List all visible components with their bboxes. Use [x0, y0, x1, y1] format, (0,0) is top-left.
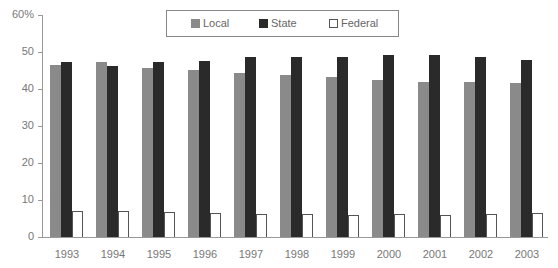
x-tick-label: 2001: [412, 248, 458, 260]
bar-state-1997: [245, 57, 256, 237]
legend: Local State Federal: [166, 10, 399, 37]
bar-local-1994: [96, 62, 107, 237]
y-tick-label: 40: [0, 82, 34, 94]
bar-local-2003: [510, 83, 521, 237]
y-tick: [38, 15, 42, 16]
x-tick-label: 1994: [90, 248, 136, 260]
bar-local-2002: [464, 82, 475, 237]
bar-state-2003: [521, 60, 532, 237]
y-tick-label: 30: [0, 119, 34, 131]
y-tick-label: 10: [0, 193, 34, 205]
legend-item-federal: Federal: [329, 17, 378, 29]
bar-state-1994: [107, 66, 118, 237]
legend-label: Federal: [341, 17, 378, 29]
bar-local-1996: [188, 70, 199, 237]
bar-federal-1999: [348, 215, 359, 237]
bar-federal-1998: [302, 214, 313, 237]
federal-swatch-icon: [329, 19, 338, 28]
legend-item-state: State: [259, 17, 297, 29]
y-tick: [38, 52, 42, 53]
legend-item-local: Local: [191, 17, 229, 29]
bar-local-1998: [280, 75, 291, 237]
bar-state-1999: [337, 57, 348, 237]
y-tick: [38, 89, 42, 90]
state-swatch-icon: [259, 19, 268, 28]
bar-local-1995: [142, 68, 153, 237]
y-axis: [42, 15, 43, 237]
x-tick-label: 1999: [320, 248, 366, 260]
y-tick-label: 60%: [0, 8, 34, 20]
x-tick-label: 1996: [182, 248, 228, 260]
bar-state-1993: [61, 62, 72, 237]
bar-federal-2003: [532, 213, 543, 237]
bar-federal-1993: [72, 211, 83, 237]
y-tick-label: 0: [0, 230, 34, 242]
x-tick-label: 1997: [228, 248, 274, 260]
bar-state-2000: [383, 55, 394, 237]
bar-state-1996: [199, 61, 210, 237]
x-tick-label: 1998: [274, 248, 320, 260]
bar-local-1999: [326, 77, 337, 237]
bar-local-1993: [50, 65, 61, 237]
bar-local-2001: [418, 82, 429, 237]
bar-federal-2001: [440, 215, 451, 237]
local-swatch-icon: [191, 19, 200, 28]
x-axis: [42, 237, 548, 238]
y-tick-label: 50: [0, 45, 34, 57]
bar-local-2000: [372, 80, 383, 237]
bar-state-1998: [291, 57, 302, 237]
y-tick: [38, 237, 42, 238]
bar-local-1997: [234, 73, 245, 237]
y-tick: [38, 126, 42, 127]
x-tick-label: 1995: [136, 248, 182, 260]
bar-federal-2002: [486, 214, 497, 237]
bar-state-2002: [475, 57, 486, 237]
x-tick-label: 2000: [366, 248, 412, 260]
bar-federal-2000: [394, 214, 405, 237]
bar-federal-1996: [210, 213, 221, 237]
x-tick-label: 1993: [44, 248, 90, 260]
y-tick-label: 20: [0, 156, 34, 168]
y-tick: [38, 163, 42, 164]
y-tick: [38, 200, 42, 201]
x-tick-label: 2003: [504, 248, 550, 260]
legend-label: Local: [203, 17, 229, 29]
bar-federal-1995: [164, 212, 175, 237]
bar-state-2001: [429, 55, 440, 237]
legend-label: State: [271, 17, 297, 29]
bar-federal-1994: [118, 211, 129, 237]
x-tick-label: 2002: [458, 248, 504, 260]
bar-federal-1997: [256, 214, 267, 237]
bar-state-1995: [153, 62, 164, 237]
